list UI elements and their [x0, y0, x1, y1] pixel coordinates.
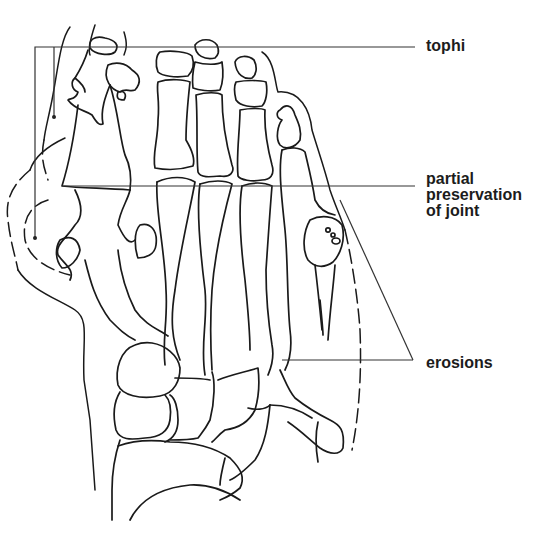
label-line-2: preservation	[426, 187, 551, 203]
label-tophi: tophi	[426, 38, 465, 54]
label-line-1: partial	[426, 171, 551, 187]
third-toe-bones	[193, 40, 233, 375]
big-toe-bones	[56, 37, 168, 340]
label-erosions: erosions	[426, 355, 493, 371]
label-partial-preservation-of-joint: partial preservation of joint	[426, 171, 551, 219]
fourth-toe-bones	[235, 56, 273, 375]
label-line-3: of joint	[426, 203, 551, 219]
fifth-toe-bones	[277, 106, 343, 462]
erosions-leader-diagonal	[340, 200, 413, 360]
foot-bone-diagram	[0, 0, 553, 546]
second-toe-bones	[154, 51, 195, 365]
leader-lines	[33, 47, 415, 360]
